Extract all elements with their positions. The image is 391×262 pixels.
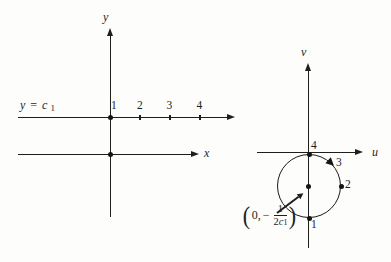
v-axis-arrow-icon — [305, 63, 311, 71]
equation-subscript: 1 — [50, 103, 55, 113]
fraction-numerator: 1 — [274, 203, 287, 216]
close-paren: ) — [289, 203, 296, 229]
circle-point-label-1: 1 — [311, 219, 317, 231]
tick-label-4: 4 — [197, 100, 203, 112]
circle-point-dot-4 — [307, 152, 312, 157]
circle-point-label-2: 2 — [345, 179, 351, 191]
equation-equals: = — [30, 98, 37, 112]
y-axis-label: y — [103, 11, 108, 23]
y-axis-line — [110, 31, 111, 217]
figure-canvas: y y = c 1 1 2 3 4 x v — [0, 0, 391, 262]
x-axis-line — [18, 154, 193, 155]
circle-center-dot — [306, 184, 311, 189]
v-axis-label: v — [301, 46, 306, 58]
coordinate-minus-sign: − — [263, 208, 270, 223]
equation-var: c — [42, 98, 47, 112]
tick-label-3: 3 — [167, 100, 173, 112]
u-axis-label: u — [372, 146, 378, 158]
tick-label-1: 1 — [111, 100, 117, 112]
circle-point-dot-2 — [339, 184, 344, 189]
equation-lhs: y — [20, 98, 25, 112]
tick-mark-3 — [169, 115, 170, 120]
line-axis-intersection-dot — [108, 115, 113, 120]
x-axis-label: x — [204, 147, 209, 159]
x-axis-arrow-icon — [191, 151, 199, 157]
u-axis-arrow-icon — [355, 149, 363, 155]
line-y-c1 — [18, 117, 229, 118]
line-equation-label: y = c 1 — [20, 99, 55, 113]
fraction-denominator-subscript: 1 — [283, 218, 287, 228]
circle-point-label-3: 3 — [336, 157, 342, 169]
tick-mark-2 — [139, 115, 140, 120]
coordinate-u-value: 0, — [252, 208, 261, 223]
line-y-c1-arrow-icon — [227, 114, 235, 120]
tick-mark-4 — [199, 115, 200, 120]
open-paren: ( — [243, 203, 250, 229]
coordinate-fraction: 1 2 c 1 — [273, 203, 287, 228]
tick-label-2: 2 — [137, 100, 143, 112]
y-axis-arrow-icon — [107, 28, 113, 36]
circle-point-label-4: 4 — [311, 140, 317, 152]
center-coordinate-label: ( 0, − 1 2 c 1 ) — [242, 203, 297, 229]
origin-dot — [108, 152, 113, 157]
